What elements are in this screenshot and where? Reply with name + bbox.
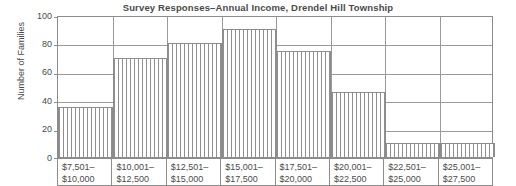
x-axis-category: $7,501–$10,000 xyxy=(57,158,111,186)
x-axis-category-line: $10,000 xyxy=(62,173,111,185)
x-axis-category: $20,001–$22,500 xyxy=(329,158,383,186)
y-tick-label: 40 xyxy=(24,97,52,106)
bar xyxy=(167,43,222,157)
x-axis-category: $17,501–$20,000 xyxy=(275,158,329,186)
gridline-vertical xyxy=(440,17,441,157)
y-tick-label: 100 xyxy=(24,12,52,21)
x-axis-categories: $7,501–$10,000$10,001–$12,500$12,501–$15… xyxy=(57,158,493,186)
y-tick-mark xyxy=(54,17,58,18)
bar xyxy=(385,143,440,157)
y-tick-mark xyxy=(54,102,58,103)
chart-figure: Survey Responses–Annual Income, Drendel … xyxy=(0,0,516,186)
y-axis-tick-labels: 020406080100 xyxy=(22,0,52,186)
x-axis-category-line: $10,001– xyxy=(116,161,165,173)
x-axis-category-line: $22,500 xyxy=(334,173,383,185)
y-tick-mark xyxy=(54,74,58,75)
y-tick-label: 60 xyxy=(24,68,52,77)
x-axis-category-line: $17,500 xyxy=(225,173,274,185)
x-axis-category-line: $15,000 xyxy=(171,173,220,185)
bar xyxy=(276,51,331,158)
x-axis-category-line: $12,501– xyxy=(171,161,220,173)
bar xyxy=(440,143,495,157)
bar xyxy=(58,107,113,157)
y-tick-mark xyxy=(54,45,58,46)
x-axis-category-line: $20,000 xyxy=(280,173,329,185)
x-axis-category-line: $20,001– xyxy=(334,161,383,173)
bar xyxy=(331,92,386,157)
x-axis-category-line: $25,000 xyxy=(388,173,437,185)
x-axis-category-line: $15,001– xyxy=(225,161,274,173)
bar xyxy=(222,29,277,157)
x-axis-category-line: $22,501– xyxy=(388,161,437,173)
x-axis-category: $10,001–$12,500 xyxy=(111,158,165,186)
x-axis-category: $25,001–$27,500 xyxy=(438,158,493,186)
bar xyxy=(113,58,168,157)
y-tick-label: 0 xyxy=(24,154,52,163)
y-tick-label: 20 xyxy=(24,125,52,134)
x-axis-category: $15,001–$17,500 xyxy=(220,158,274,186)
plot-area xyxy=(57,16,493,158)
x-axis-category-line: $25,001– xyxy=(443,161,492,173)
x-axis-category-line: $7,501– xyxy=(62,161,111,173)
x-axis-category: $22,501–$25,000 xyxy=(383,158,437,186)
chart-title: Survey Responses–Annual Income, Drendel … xyxy=(0,2,516,13)
x-axis-category-line: $12,500 xyxy=(116,173,165,185)
x-axis-category-line: $27,500 xyxy=(443,173,492,185)
x-axis-category: $12,501–$15,000 xyxy=(166,158,220,186)
y-tick-label: 80 xyxy=(24,40,52,49)
x-axis-category-line: $17,501– xyxy=(280,161,329,173)
